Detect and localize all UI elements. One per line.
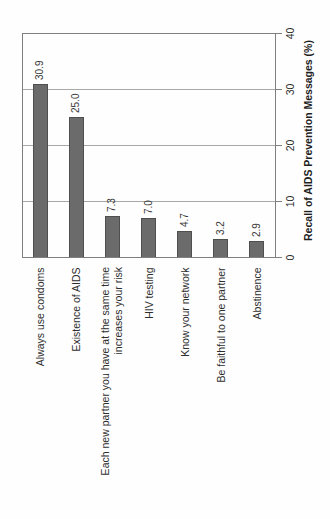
category-label: Be faithful to one partner bbox=[214, 267, 227, 497]
gridline bbox=[23, 145, 275, 146]
bar bbox=[33, 84, 48, 257]
axis-tick-mark bbox=[276, 257, 282, 258]
category-label-line: Be faithful to one partner bbox=[214, 267, 227, 497]
bar bbox=[141, 218, 156, 257]
bar bbox=[249, 241, 264, 257]
bar bbox=[213, 239, 228, 257]
bar bbox=[177, 231, 192, 257]
category-label: Know your network bbox=[178, 267, 191, 497]
axis-tick-label: 0 bbox=[284, 245, 297, 271]
category-label-line: increases your risk bbox=[112, 267, 125, 497]
category-label: Abstinence bbox=[250, 267, 263, 497]
axis-tick-mark bbox=[276, 89, 282, 90]
bar-value-label: 7.0 bbox=[142, 184, 156, 214]
axis-tick-mark bbox=[276, 33, 282, 34]
category-label: Each new partner you have at the same ti… bbox=[99, 267, 125, 497]
axis-tick-mark bbox=[276, 145, 282, 146]
plot-area bbox=[22, 33, 276, 258]
gridline bbox=[23, 89, 275, 90]
bar-value-label: 4.7 bbox=[178, 197, 192, 227]
category-label: Existence of AIDS bbox=[70, 267, 83, 497]
category-label-line: Always use condoms bbox=[34, 267, 47, 497]
bar-value-label: 2.9 bbox=[250, 207, 264, 237]
bar-value-label: 3.2 bbox=[214, 205, 228, 235]
axis-tick-label: 10 bbox=[284, 189, 297, 215]
category-label: Always use condoms bbox=[34, 267, 47, 497]
axis-tick-label: 30 bbox=[284, 77, 297, 103]
category-label: HIV testing bbox=[142, 267, 155, 497]
bar-value-label: 7.3 bbox=[105, 182, 119, 212]
axis-tick-label: 40 bbox=[284, 21, 297, 47]
bar bbox=[69, 117, 84, 257]
bar bbox=[105, 216, 120, 257]
category-label-line: Each new partner you have at the same ti… bbox=[99, 267, 112, 497]
category-label-line: HIV testing bbox=[142, 267, 155, 497]
category-label-line: Abstinence bbox=[250, 267, 263, 497]
category-label-line: Know your network bbox=[178, 267, 191, 497]
bar-value-label: 30.9 bbox=[33, 50, 47, 80]
bar-value-label: 25.0 bbox=[69, 83, 83, 113]
value-axis-title: Recall of AIDS Prevention Messages (%) bbox=[301, 1, 316, 281]
axis-tick-mark bbox=[276, 201, 282, 202]
bar-chart-figure: Recall of AIDS Prevention Messages (%) 0… bbox=[0, 0, 330, 519]
category-label-line: Existence of AIDS bbox=[70, 267, 83, 497]
axis-tick-label: 20 bbox=[284, 133, 297, 159]
